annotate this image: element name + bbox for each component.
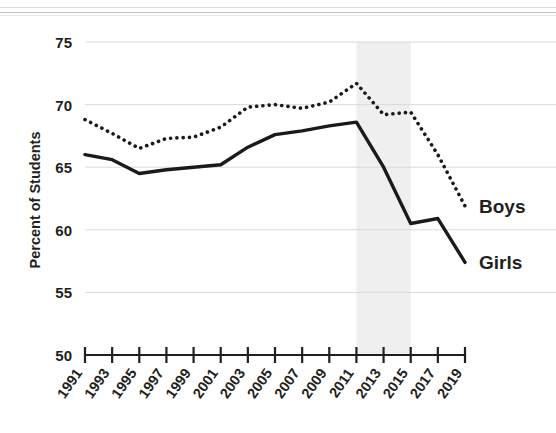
legend-label-girls: Girls [479,252,522,273]
x-axis-tick-label: 1993 [81,366,113,402]
x-axis-tick-label: 2015 [380,366,412,402]
series-legend: BoysGirls [479,196,525,273]
x-axis-tick-labels: 1991199319951997199920012003200520072009… [54,366,466,402]
highlight-band [356,42,410,355]
x-axis-tick-label: 2011 [326,366,357,401]
x-axis-tick-label: 2009 [298,366,330,402]
x-axis-tick-label: 1997 [135,366,167,402]
y-axis-tick-label: 50 [55,347,72,364]
y-axis-tick-label: 70 [55,97,72,114]
x-axis-tick-label: 2019 [434,366,466,402]
x-axis-tick-label: 2005 [244,366,276,402]
y-axis-tick-label: 55 [55,284,72,301]
x-axis-tick-label: 2007 [271,366,303,402]
chart-container: 505560657075 199119931995199719992001200… [0,0,556,433]
x-axis-tick-label: 1995 [108,366,140,402]
y-axis-tick-label: 65 [55,159,72,176]
x-axis-tick-label: 2017 [407,366,439,402]
shaded-year-range [356,42,410,355]
y-axis-title: Percent of Students [27,132,43,269]
line-chart-plot: 505560657075 199119931995199719992001200… [0,0,556,433]
legend-label-boys: Boys [479,196,525,217]
x-axis-tick-label: 2003 [217,366,249,402]
y-axis-tick-label: 75 [55,34,72,51]
x-axis-tick-label: 1991 [54,366,86,402]
x-axis-tick-label: 1999 [162,366,194,402]
y-axis-tick-label: 60 [55,222,72,239]
x-axis-tick-label: 2013 [352,366,384,402]
y-axis-tick-labels: 505560657075 [55,34,72,364]
x-axis-tick-label: 2001 [190,366,222,402]
